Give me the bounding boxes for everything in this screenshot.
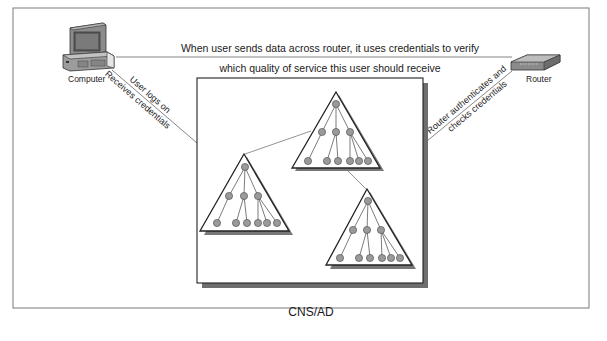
router-icon — [511, 55, 560, 70]
router-label: Router — [526, 74, 552, 84]
top-caption-line1: When user sends data across router, it u… — [181, 42, 480, 54]
network-qos-diagram: When user sends data across router, it u… — [0, 0, 607, 341]
container-label: CNS/AD — [288, 305, 334, 319]
right-link-line1: Router authenticates and — [425, 63, 508, 135]
top-caption-line2: which quality of service this user shoul… — [218, 62, 440, 74]
computer-label: Computer — [68, 74, 105, 84]
computer-icon — [63, 23, 114, 71]
